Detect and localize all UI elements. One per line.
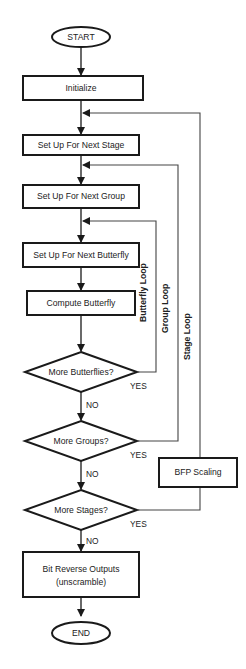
- bfp-scaling-label: BFP Scaling: [174, 467, 221, 477]
- setup-stage-box: Set Up For Next Stage: [23, 135, 139, 155]
- fft-flowchart: START Initialize Set Up For Next Stage S…: [0, 0, 246, 669]
- no-label-groups: NO: [86, 469, 99, 479]
- no-label-stages: NO: [86, 536, 99, 546]
- stage-loop-line-lower: [137, 487, 200, 510]
- bit-reverse-label-line1: Bit Reverse Outputs: [43, 564, 120, 574]
- decision-more-butterflies: More Butterflies?: [25, 352, 137, 392]
- bit-reverse-box: Bit Reverse Outputs (unscramble): [23, 552, 139, 597]
- yes-label-stages: YES: [130, 519, 147, 529]
- bfp-scaling-box: BFP Scaling: [159, 458, 237, 487]
- bit-reverse-label-line2: (unscramble): [56, 577, 106, 587]
- decision-more-stages: More Stages?: [25, 490, 137, 530]
- end-terminal: END: [52, 622, 110, 644]
- setup-butterfly-label: Set Up For Next Butterfly: [33, 250, 129, 260]
- more-groups-label: More Groups?: [54, 436, 109, 446]
- setup-group-label: Set Up For Next Group: [37, 191, 125, 201]
- more-stages-label: More Stages?: [54, 505, 108, 515]
- initialize-label: Initialize: [65, 83, 96, 93]
- yes-label-groups: YES: [130, 450, 147, 460]
- initialize-box: Initialize: [23, 76, 143, 100]
- decision-more-groups: More Groups?: [25, 421, 137, 461]
- no-label-butterflies: NO: [86, 400, 99, 410]
- start-label: START: [67, 32, 95, 42]
- compute-butterfly-label: Compute Butterfly: [47, 298, 116, 308]
- setup-stage-label: Set Up For Next Stage: [38, 140, 125, 150]
- setup-butterfly-box: Set Up For Next Butterfly: [23, 243, 139, 267]
- start-terminal: START: [52, 27, 110, 47]
- yes-label-butterflies: YES: [130, 381, 147, 391]
- setup-group-box: Set Up For Next Group: [23, 185, 139, 208]
- more-butterflies-label: More Butterflies?: [49, 367, 114, 377]
- compute-butterfly-box: Compute Butterfly: [27, 291, 135, 315]
- group-loop-label: Group Loop: [160, 284, 170, 333]
- stage-loop-label: Stage Loop: [182, 313, 192, 360]
- end-label: END: [72, 628, 90, 638]
- butterfly-loop-label: Butterfly Loop: [138, 263, 148, 322]
